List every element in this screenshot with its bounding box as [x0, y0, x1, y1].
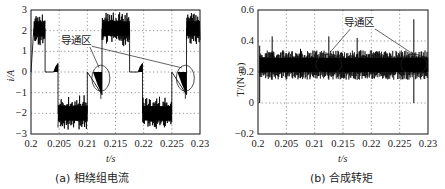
caption-b: (b) 合成转矩	[310, 169, 373, 185]
y-tick-label: 0.4	[232, 35, 254, 46]
y-tick-label: 0	[232, 97, 254, 108]
plot-area-b	[0, 0, 445, 189]
annotation-conduction-zone-b: 导通区	[343, 14, 375, 29]
y-axis-label-b: T/(N·m)	[235, 47, 246, 97]
figure-b-resultant-torque: 0.60.40.20−0.2 0.20.2050.210.2150.220.22…	[0, 0, 445, 189]
x-axis-label-b: t/s	[338, 153, 347, 164]
y-tick-label: 0.6	[232, 4, 254, 15]
x-tick-label: 0.23	[410, 138, 445, 149]
